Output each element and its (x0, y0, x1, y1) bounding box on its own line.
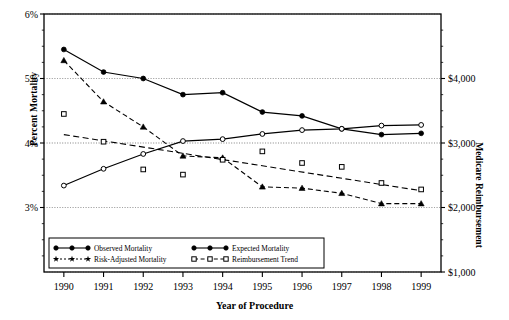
series-line (64, 49, 421, 134)
data-point-marker (181, 172, 186, 177)
chart-figure: 3%4%5%6%$1,000$2,000$3,000$4,00019901991… (0, 0, 509, 320)
data-point-marker (192, 257, 196, 261)
data-point-marker (61, 183, 66, 188)
x-tick-label: 1996 (292, 281, 312, 292)
data-point-marker (224, 246, 228, 250)
legend-label: Expected Mortality (232, 244, 290, 253)
data-point-marker (260, 110, 265, 115)
legend-label: Risk-Adjusted Mortality (94, 255, 167, 264)
data-point-marker (141, 167, 146, 172)
data-point-marker (181, 92, 186, 97)
data-point-marker (339, 126, 344, 131)
y-tick-label-right: $1,000 (448, 267, 476, 278)
data-point-marker (260, 149, 265, 154)
x-tick-label: 1999 (411, 281, 431, 292)
data-point-marker (260, 132, 265, 137)
data-point-marker (101, 139, 106, 144)
data-point-marker (61, 57, 67, 62)
data-point-marker (101, 166, 106, 171)
data-point-marker (61, 47, 66, 52)
data-point-marker (86, 246, 90, 250)
legend-label: Observed Mortality (94, 244, 152, 253)
data-point-marker (101, 70, 106, 75)
data-point-marker (140, 124, 146, 129)
data-point-marker (54, 246, 58, 250)
y-tick-label-left: 6% (25, 9, 38, 20)
data-point-marker (101, 99, 107, 104)
data-point-marker (300, 128, 305, 133)
data-point-marker (220, 157, 225, 162)
data-point-marker (220, 90, 225, 95)
data-point-marker (70, 246, 74, 250)
data-point-marker (419, 123, 424, 128)
data-point-marker (62, 112, 67, 117)
x-tick-label: 1992 (133, 281, 153, 292)
data-point-marker (208, 257, 212, 261)
data-point-marker (419, 131, 424, 136)
series-reimbursement-trend (62, 112, 424, 192)
x-axis-title: Year of Procedure (0, 300, 509, 311)
x-tick-label: 1995 (252, 281, 272, 292)
data-point-marker (192, 246, 196, 250)
series-line (64, 125, 421, 186)
data-point-marker (208, 246, 212, 250)
y-axis-left-title: Percent Mortality (29, 49, 39, 169)
data-point-marker (141, 152, 146, 157)
x-tick-label: 1991 (94, 281, 114, 292)
data-point-marker (224, 257, 228, 261)
chart-svg: 3%4%5%6%$1,000$2,000$3,000$4,00019901991… (0, 0, 509, 320)
y-tick-label-left: 3% (25, 202, 38, 213)
data-point-marker (379, 181, 384, 186)
chart-legend: Observed MortalityExpected MortalityRisk… (49, 238, 324, 268)
data-point-marker (379, 132, 384, 137)
data-point-marker (419, 187, 424, 192)
y-tick-label-right: $3,000 (448, 138, 476, 149)
data-point-marker (379, 123, 384, 128)
data-point-marker (300, 161, 305, 166)
data-point-marker (181, 139, 186, 144)
data-point-marker (220, 137, 225, 142)
x-tick-label: 1994 (213, 281, 233, 292)
data-point-marker (299, 185, 305, 190)
y-tick-label-right: $2,000 (448, 202, 476, 213)
series-observed-mortality (61, 47, 423, 137)
data-point-marker (141, 76, 146, 81)
y-axis-right-title: Medicare Reimbursement (474, 120, 484, 270)
x-tick-label: 1998 (371, 281, 391, 292)
data-point-marker (339, 165, 344, 170)
data-point-marker (300, 114, 305, 119)
legend-label: Reimbursement Trend (232, 255, 298, 264)
x-tick-label: 1990 (54, 281, 74, 292)
data-series-group (61, 47, 424, 206)
series-risk-adjusted-mortality (61, 57, 424, 205)
x-tick-label: 1993 (173, 281, 193, 292)
y-tick-label-right: $4,000 (448, 73, 476, 84)
x-tick-label: 1997 (332, 281, 352, 292)
